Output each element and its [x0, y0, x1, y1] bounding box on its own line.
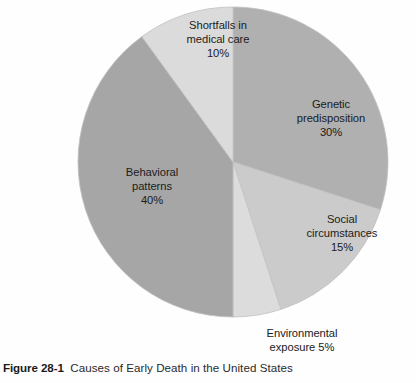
- figure-caption: Figure 28-1 Causes of Early Death in the…: [3, 360, 413, 376]
- slice-label-line1: Shortfalls in: [189, 19, 247, 31]
- slice-label-line2: patterns: [100, 179, 204, 193]
- slice-label-behavioral-patterns: Behavioral patterns 40%: [100, 165, 204, 208]
- slice-label-line1: Environmental: [267, 327, 338, 339]
- figure-container: Shortfalls in medical care 10% Genetic p…: [0, 0, 416, 383]
- slice-value: 30%: [272, 125, 390, 139]
- figure-caption-body: Causes of Early Death in the United Stat…: [70, 361, 293, 374]
- slice-label-line2: predisposition: [272, 111, 390, 125]
- slice-label-genetic-predisposition: Genetic predisposition 30%: [272, 97, 390, 140]
- slice-label-environmental-exposure: Environmental exposure 5%: [232, 326, 372, 354]
- slice-label-social-circumstances: Social circumstances 15%: [286, 212, 398, 255]
- slice-label-line2: medical care: [152, 32, 284, 46]
- slice-value: 10%: [152, 46, 284, 60]
- pie-chart: Shortfalls in medical care 10% Genetic p…: [0, 0, 416, 340]
- slice-label-line1: Genetic: [312, 98, 350, 110]
- slice-value: 40%: [100, 193, 204, 207]
- slice-label-shortfalls-in-medical-care: Shortfalls in medical care 10%: [152, 18, 284, 61]
- slice-value: 15%: [286, 240, 398, 254]
- figure-caption-text: Causes of Early Death in the United Stat…: [64, 361, 293, 374]
- slice-label-line1: Behavioral: [126, 166, 178, 178]
- slice-label-line2: circumstances: [286, 226, 398, 240]
- figure-number: Figure 28-1: [3, 361, 64, 374]
- slice-label-line1: Social: [327, 213, 357, 225]
- slice-label-line2: exposure 5%: [232, 340, 372, 354]
